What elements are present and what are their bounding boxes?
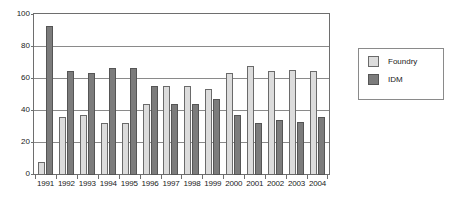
bar-group — [202, 13, 223, 175]
y-axis-tick-label: 80 — [21, 42, 30, 50]
bar-group — [35, 13, 56, 175]
y-axis-tick-label: 60 — [21, 74, 30, 82]
x-axis-tick-label: 2002 — [265, 180, 286, 189]
bar-idm-2001 — [255, 123, 262, 175]
x-axis-tick-label: 1991 — [35, 180, 56, 189]
x-axis-tick-label: 2003 — [286, 180, 307, 189]
bar-group — [307, 13, 328, 175]
bar-foundry-2002 — [268, 71, 275, 175]
bar-foundry-1993 — [80, 115, 87, 175]
bar-foundry-1997 — [163, 86, 170, 175]
bar-idm-2003 — [297, 122, 304, 175]
legend-item-idm: IDM — [368, 74, 443, 85]
bar-idm-1994 — [109, 68, 116, 175]
bar-foundry-1994 — [101, 123, 108, 175]
bar-group — [223, 13, 244, 175]
y-axis-tick-label: 0 — [26, 170, 30, 178]
chart-legend: Foundry IDM — [358, 48, 444, 100]
bar-group — [77, 13, 98, 175]
x-axis-tick-label: 1992 — [56, 180, 77, 189]
x-axis-labels: 1991199219931994199519961997199819992000… — [33, 180, 330, 189]
bar-group — [244, 13, 265, 175]
x-axis-tick-label: 2001 — [244, 180, 265, 189]
bar-group — [98, 13, 119, 175]
bar-chart-figure: 020406080100 199119921993199419951996199… — [0, 0, 453, 198]
bars-layer — [33, 13, 330, 175]
bar-group — [161, 13, 182, 175]
bar-foundry-1998 — [184, 86, 191, 175]
legend-swatch-idm-icon — [368, 74, 379, 85]
y-axis-tick-label: 100 — [17, 10, 30, 18]
x-axis-tick-label: 2004 — [307, 180, 328, 189]
bar-group — [181, 13, 202, 175]
x-axis-tick-label: 1995 — [119, 180, 140, 189]
bar-idm-1992 — [67, 71, 74, 175]
bar-foundry-2000 — [226, 73, 233, 175]
bar-group — [119, 13, 140, 175]
bar-group — [56, 13, 77, 175]
bar-foundry-1991 — [38, 162, 45, 175]
x-axis-tick-label: 1998 — [181, 180, 202, 189]
x-axis-tickmarks — [33, 175, 330, 179]
bar-group — [286, 13, 307, 175]
bar-idm-2002 — [276, 120, 283, 175]
x-axis-tick-label: 2000 — [223, 180, 244, 189]
bar-idm-1991 — [46, 26, 53, 175]
legend-label-idm: IDM — [388, 76, 403, 84]
x-axis-tick-label: 1999 — [202, 180, 223, 189]
bar-foundry-2001 — [247, 66, 254, 175]
legend-swatch-foundry-icon — [368, 56, 379, 67]
bar-idm-1999 — [213, 99, 220, 175]
bar-idm-2004 — [318, 117, 325, 175]
y-axis-tick-label: 20 — [21, 138, 30, 146]
bar-foundry-1995 — [122, 123, 129, 175]
bar-idm-1995 — [130, 68, 137, 175]
plot-wrap: 020406080100 199119921993199419951996199… — [0, 0, 345, 198]
bar-foundry-1992 — [59, 117, 66, 175]
bar-group — [265, 13, 286, 175]
bar-idm-2000 — [234, 115, 241, 175]
bar-foundry-1996 — [143, 104, 150, 175]
bar-group — [140, 13, 161, 175]
legend-label-foundry: Foundry — [388, 58, 417, 66]
bar-foundry-1999 — [205, 89, 212, 175]
bar-foundry-2003 — [289, 70, 296, 175]
x-axis-tick-label: 1996 — [140, 180, 161, 189]
x-axis-tick-label: 1997 — [161, 180, 182, 189]
bar-foundry-2004 — [310, 71, 317, 175]
bar-idm-1998 — [192, 104, 199, 175]
y-axis-tick-label: 40 — [21, 106, 30, 114]
legend-item-foundry: Foundry — [368, 56, 443, 67]
bar-idm-1996 — [151, 86, 158, 175]
x-axis-tick-label: 1993 — [77, 180, 98, 189]
bar-idm-1997 — [171, 104, 178, 175]
bar-idm-1993 — [88, 73, 95, 175]
x-axis-tick-label: 1994 — [98, 180, 119, 189]
